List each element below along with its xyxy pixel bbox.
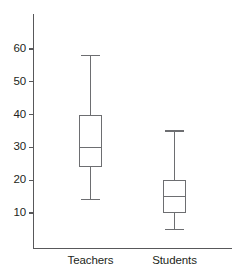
median-line (163, 196, 186, 197)
lower-whisker-cap (165, 229, 184, 230)
x-axis-label-teachers: Teachers (51, 253, 131, 267)
box-plot-series-students (0, 0, 242, 272)
x-axis-label-students: Students (135, 253, 215, 267)
box-plot-chart: 605040302010 TeachersStudents (0, 0, 242, 272)
upper-whisker-cap (165, 130, 184, 131)
lower-whisker-line (174, 213, 175, 229)
upper-whisker-line (174, 131, 175, 180)
